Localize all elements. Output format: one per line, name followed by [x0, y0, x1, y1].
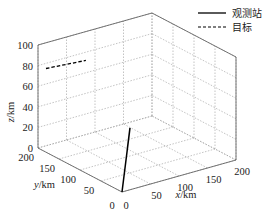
x-tick-label: 50	[151, 190, 162, 201]
x-tick-label: 0	[123, 200, 128, 210]
legend-label-target: 目标	[232, 22, 252, 33]
x-tick-label: 200	[234, 166, 250, 177]
z-axis-label: z/km	[5, 102, 16, 123]
grid-line	[152, 75, 236, 119]
grid-line	[101, 149, 215, 181]
z-tick-label: 40	[23, 102, 34, 113]
axis-edge	[38, 13, 152, 45]
target-trajectory-line	[46, 60, 86, 68]
y-tick-label: 200	[18, 152, 34, 163]
y-tick-label: 0	[109, 200, 114, 210]
x-axis-label: x/km	[174, 189, 196, 200]
axes-box	[38, 13, 236, 192]
grid-line	[67, 140, 151, 184]
station-trajectory-line	[122, 128, 130, 192]
z-tick-label: 100	[17, 40, 33, 51]
grid-line	[80, 138, 194, 170]
z-tick-label: 20	[23, 122, 34, 133]
z-tick-label: 60	[23, 81, 34, 92]
y-tick-label: 150	[39, 163, 55, 174]
grid-line	[124, 124, 208, 168]
z-tick-label: 80	[23, 61, 34, 72]
grid-line	[95, 132, 179, 176]
grid-line	[59, 127, 173, 159]
legend-label-station: 观测站	[232, 7, 262, 19]
grid-lines	[38, 13, 236, 192]
y-axis-label: y/km	[33, 179, 55, 190]
y-tick-label: 100	[60, 174, 76, 185]
y-tick-label: 50	[84, 185, 95, 196]
legend: 观测站 目标	[198, 7, 262, 33]
x-tick-label: 150	[206, 174, 222, 185]
chart-3d-plot: 020406080100050100150200050100150200 z/k…	[0, 0, 268, 210]
